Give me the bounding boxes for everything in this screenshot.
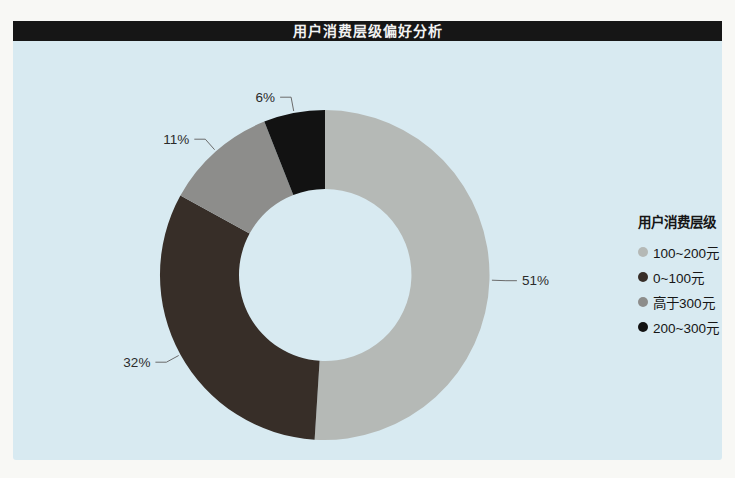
legend-swatch-icon	[638, 247, 648, 257]
label-leader-line	[155, 356, 178, 363]
legend-title: 用户消费层级	[638, 211, 735, 231]
legend-item-100-200[interactable]: 100~200元	[638, 239, 735, 264]
label-leader-line	[280, 97, 294, 111]
label-leader-line	[194, 139, 214, 150]
legend: 用户消费层级 100~200元 0~100元 高于300元 200~300元	[638, 211, 735, 339]
legend-item-above-300[interactable]: 高于300元	[638, 289, 735, 314]
legend-item-200-300[interactable]: 200~300元	[638, 314, 735, 339]
slice-value-label: 51%	[522, 273, 549, 288]
donut-chart[interactable]: 51%32%11%6%	[13, 21, 722, 460]
slice-value-label: 6%	[256, 90, 276, 105]
legend-item-label: 200~300元	[653, 317, 719, 337]
legend-swatch-icon	[638, 297, 648, 307]
slice-value-label: 11%	[163, 132, 189, 147]
slice-value-label: 32%	[123, 355, 150, 370]
legend-item-label: 高于300元	[653, 292, 715, 312]
legend-swatch-icon	[638, 272, 648, 282]
chart-panel: 用户消费层级偏好分析 51%32%11%6% 用户消费层级 100~200元 0…	[13, 21, 722, 460]
label-leader-line	[492, 280, 517, 281]
legend-item-0-100[interactable]: 0~100元	[638, 264, 735, 289]
legend-item-label: 100~200元	[653, 242, 719, 262]
legend-swatch-icon	[638, 322, 648, 332]
pie-slice-0[interactable]	[315, 110, 490, 440]
pie-slice-1[interactable]	[160, 196, 320, 440]
legend-item-label: 0~100元	[653, 267, 704, 287]
